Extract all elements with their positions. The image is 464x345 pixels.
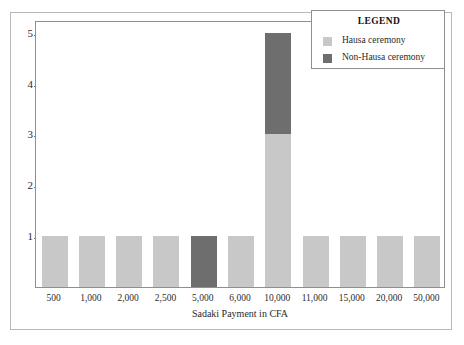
- bar-segment: [42, 236, 68, 287]
- y-tick-label: 4: [0, 79, 33, 89]
- bar-segment: [191, 236, 217, 287]
- bar-group[interactable]: [340, 236, 366, 287]
- bar-group[interactable]: [265, 33, 291, 287]
- legend-label-non-hausa: Non-Hausa ceremony: [342, 52, 425, 62]
- x-axis-title: Sadaki Payment in CFA: [35, 308, 445, 319]
- x-tick-label: 2,500: [147, 293, 184, 303]
- x-tick-label: 1,000: [72, 293, 109, 303]
- x-tick-label: 50,000: [408, 293, 445, 303]
- bar-group[interactable]: [153, 236, 179, 287]
- legend-swatch-hausa: [323, 37, 332, 46]
- bar-group[interactable]: [377, 236, 403, 287]
- bar-group[interactable]: [228, 236, 254, 287]
- bar-segment: [414, 236, 440, 287]
- bar-segment: [153, 236, 179, 287]
- bar-segment: [116, 236, 142, 287]
- bar-group[interactable]: [303, 236, 329, 287]
- legend: LEGEND Hausa ceremony Non-Hausa ceremony: [311, 10, 445, 69]
- y-tick-label: 5: [0, 28, 33, 38]
- x-tick-label: 20,000: [370, 293, 407, 303]
- bar-segment: [79, 236, 105, 287]
- bar-segment: [228, 236, 254, 287]
- bar-segment: [303, 236, 329, 287]
- x-tick-label: 15,000: [333, 293, 370, 303]
- x-tick-label: 5,000: [184, 293, 221, 303]
- y-tick-label: 1: [0, 231, 33, 241]
- bar-segment: [265, 134, 291, 287]
- bar-group[interactable]: [116, 236, 142, 287]
- y-tick-label: 3: [0, 129, 33, 139]
- bar-group[interactable]: [42, 236, 68, 287]
- x-tick-label: 6,000: [221, 293, 258, 303]
- legend-label-hausa: Hausa ceremony: [342, 35, 406, 45]
- x-tick-label: 500: [35, 293, 72, 303]
- bar-group[interactable]: [414, 236, 440, 287]
- legend-swatch-non-hausa: [323, 54, 332, 63]
- legend-title: LEGEND: [312, 16, 446, 26]
- bar-segment: [377, 236, 403, 287]
- x-tick-label: 11,000: [296, 293, 333, 303]
- x-tick-label: 2,000: [110, 293, 147, 303]
- bar-group[interactable]: [79, 236, 105, 287]
- x-tick-label: 10,000: [259, 293, 296, 303]
- chart-figure: Number of Cases 12345 5001,0002,0002,500…: [0, 0, 464, 345]
- bar-group[interactable]: [191, 236, 217, 287]
- bar-segment: [265, 33, 291, 135]
- y-tick-label: 2: [0, 180, 33, 190]
- bar-segment: [340, 236, 366, 287]
